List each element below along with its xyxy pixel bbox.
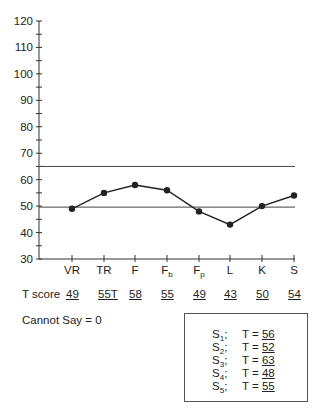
y-tick-label: 70 bbox=[20, 147, 33, 159]
x-label-f: F bbox=[127, 265, 143, 277]
s-scores-box: S1;T = 56S2;T = 52S3;T = 63S4;T = 48S5;T… bbox=[184, 313, 308, 402]
tscore-value-fp: 49 bbox=[193, 289, 206, 301]
data-point-k bbox=[259, 203, 265, 209]
s-eq: T = bbox=[242, 354, 262, 366]
y-tick-label: 40 bbox=[20, 227, 33, 239]
tscore-row-label: T score bbox=[22, 289, 60, 301]
tscore-value-s: 54 bbox=[288, 289, 301, 301]
y-tick-label: 60 bbox=[20, 174, 33, 186]
y-tick-label: 120 bbox=[14, 15, 33, 27]
s-score-row: S5;T = 55 bbox=[212, 380, 275, 395]
y-tick-label: 30 bbox=[20, 253, 33, 265]
y-tick-label: 50 bbox=[20, 200, 33, 212]
y-tick-label: 90 bbox=[20, 94, 33, 106]
tscore-value-vr: 49 bbox=[66, 289, 79, 301]
x-label-vr: VR bbox=[64, 265, 80, 277]
x-label-tr: TR bbox=[96, 265, 112, 277]
s-eq: T = bbox=[242, 380, 262, 392]
data-point-fb bbox=[164, 187, 170, 193]
data-point-l bbox=[227, 221, 233, 227]
s-value: 63 bbox=[262, 354, 275, 366]
s-eq: T = bbox=[242, 341, 262, 353]
tscore-value-k: 50 bbox=[256, 289, 269, 301]
data-point-vr bbox=[69, 206, 75, 212]
tscore-value-l: 43 bbox=[224, 289, 237, 301]
s-value: 55 bbox=[262, 380, 275, 392]
x-label-l: L bbox=[222, 265, 238, 277]
data-point-f bbox=[132, 182, 138, 188]
cannot-say-text: Cannot Say = 0 bbox=[22, 315, 102, 327]
data-point-fp bbox=[196, 208, 202, 214]
y-tick-label: 80 bbox=[20, 121, 33, 133]
x-label-fb: Fb bbox=[159, 265, 175, 279]
s-eq: T = bbox=[242, 328, 262, 340]
tscore-value-f: 58 bbox=[129, 289, 142, 301]
t-score-profile-chart: 30405060708090100110120 bbox=[0, 0, 324, 300]
x-label-k: K bbox=[254, 265, 270, 277]
x-label-fp: Fp bbox=[191, 265, 207, 279]
tscore-value-fb: 55 bbox=[161, 289, 174, 301]
s-eq: T = bbox=[242, 367, 262, 379]
y-tick-label: 110 bbox=[15, 41, 33, 53]
data-point-s bbox=[291, 192, 297, 198]
x-label-s: S bbox=[286, 265, 302, 277]
y-tick-label: 100 bbox=[14, 68, 33, 80]
tscore-value-tr: 55T bbox=[98, 289, 118, 301]
data-point-tr bbox=[101, 190, 107, 196]
s-value: 48 bbox=[262, 367, 275, 379]
s-label: S5; bbox=[212, 380, 242, 395]
s-value: 52 bbox=[262, 341, 275, 353]
s-value: 56 bbox=[262, 328, 275, 340]
